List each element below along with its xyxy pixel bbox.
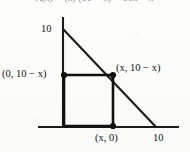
point-label-left-corner: (0, 10 − x) — [2, 69, 46, 80]
figure-root: A(x) = (x)·(10 − x) = 10x − x 10 10 (0, … — [0, 0, 190, 152]
point-label-bottom-corner: (x, 0) — [95, 133, 118, 144]
hypotenuse-line — [63, 29, 156, 127]
point-dot-bottom-corner — [110, 123, 116, 129]
x-axis-tick-label: 10 — [153, 133, 164, 144]
y-axis-tick-label: 10 — [41, 24, 52, 35]
point-dot-left-corner — [61, 72, 67, 78]
point-label-right-corner: (x, 10 − x) — [116, 63, 160, 74]
